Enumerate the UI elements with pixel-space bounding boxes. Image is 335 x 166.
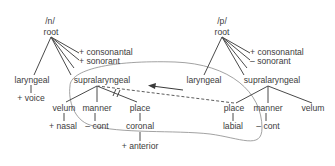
right-root-label: root (215, 27, 230, 37)
right-labial-feature: labial (223, 121, 243, 131)
right-segment-label: /p/ (217, 16, 227, 26)
right-cont-feature: – cont (256, 121, 279, 131)
right-supralaryngeal-label: supralaryngeal (244, 75, 300, 85)
left-place-label: place (130, 103, 151, 113)
left-voice-feature: + voice (17, 93, 44, 103)
left-coronal-feature: coronal (126, 121, 154, 131)
right-manner-label: manner (253, 103, 282, 113)
left-segment-label: /n/ (45, 16, 55, 26)
right-laryngeal-label: laryngeal (187, 75, 222, 85)
left-nasal-feature: + nasal (49, 121, 77, 131)
left-laryngeal-label: laryngeal (15, 75, 50, 85)
left-cont-feature: – cont (85, 121, 108, 131)
left-root-feature-sonorant: + sonorant (79, 56, 120, 66)
left-root-label: root (44, 27, 59, 37)
right-velum-label: velum (302, 103, 325, 113)
left-velum-label: velum (53, 103, 76, 113)
right-place-label: place (224, 103, 245, 113)
arrow-left-icon (148, 83, 183, 90)
right-root-feature-sonorant: – sonorant (250, 56, 291, 66)
left-anterior-feature: + anterior (122, 141, 159, 151)
left-supralaryngeal-label: supralaryngeal (74, 75, 130, 85)
left-manner-label: manner (82, 103, 111, 113)
delink-mark (113, 89, 120, 97)
feature-geometry-diagram: /n/ root + consonantal + sonorant laryng… (0, 0, 335, 166)
